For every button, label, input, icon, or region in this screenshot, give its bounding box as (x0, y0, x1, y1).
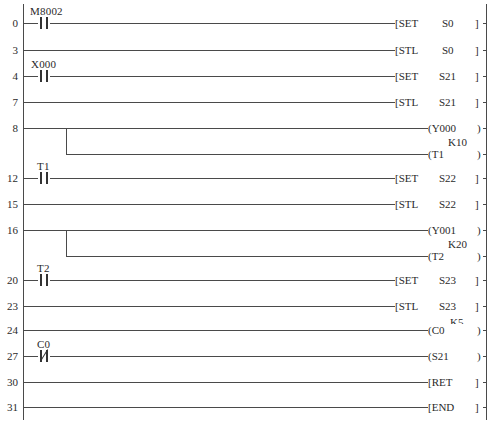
branch-wire (66, 128, 67, 155)
rung-wire (23, 102, 395, 103)
set-instruction[interactable]: [SET S23 ] (395, 274, 486, 286)
branch-rung-wire (66, 256, 428, 257)
stl-instruction[interactable]: [STL S0 ] (395, 44, 486, 56)
end-instruction[interactable]: [END ] (428, 401, 486, 413)
step-number: 8 (0, 122, 18, 134)
counter-coil-c0[interactable]: (C0 ) (428, 324, 486, 336)
step-number: 27 (0, 350, 18, 362)
normally-closed-contact-icon[interactable] (38, 350, 50, 362)
rung-wire-end (483, 76, 486, 77)
step-number: 3 (0, 44, 18, 56)
rung-wire-end (483, 50, 486, 51)
rung-wire-end (483, 204, 486, 205)
step-number: 23 (0, 300, 18, 312)
step-number: 12 (0, 172, 18, 184)
output-coil-s21[interactable]: (S21 ) (428, 350, 486, 362)
rung-wire (23, 204, 395, 205)
ret-instruction[interactable]: [RET ] (428, 376, 486, 388)
step-number: 0 (0, 17, 18, 29)
step-number: 24 (0, 324, 18, 336)
set-instruction[interactable]: [SET S22 ] (395, 172, 486, 184)
normally-open-contact-icon[interactable] (38, 274, 50, 286)
rung-wire (23, 230, 428, 231)
branch-rung-wire (66, 154, 428, 155)
rung-wire (23, 382, 428, 383)
rung-wire-end (483, 178, 486, 179)
rung-wire (23, 178, 395, 179)
rung-wire (23, 280, 395, 281)
step-number: 4 (0, 70, 18, 82)
normally-open-contact-icon[interactable] (38, 17, 50, 29)
contact-label: X000 (31, 58, 56, 70)
contact-label: M8002 (30, 5, 63, 17)
step-number: 31 (0, 401, 18, 413)
rung-wire (23, 50, 395, 51)
output-coil-y000[interactable]: (Y000 ) (428, 122, 486, 134)
stl-instruction[interactable]: [STL S22 ] (395, 198, 486, 210)
rung-wire-end (483, 356, 486, 357)
rung-wire (23, 76, 395, 77)
rung-wire (23, 306, 395, 307)
branch-wire (66, 230, 67, 257)
timer-preset: K10 (448, 136, 467, 148)
step-number: 20 (0, 274, 18, 286)
ladder-diagram: 0 3 4 7 8 12 15 16 20 23 24 27 30 31 M80… (0, 0, 496, 426)
rung-wire-end (483, 306, 486, 307)
step-number: 30 (0, 376, 18, 388)
step-number: 7 (0, 96, 18, 108)
step-number: 16 (0, 224, 18, 236)
timer-coil-t2[interactable]: (T2 ) (428, 250, 486, 262)
output-coil-y001[interactable]: (Y001 ) (428, 224, 486, 236)
timer-preset: K20 (448, 238, 467, 250)
right-power-rail (486, 4, 487, 420)
rung-wire-end (483, 230, 486, 231)
stl-instruction[interactable]: [STL S23 ] (395, 300, 486, 312)
rung-wire-end (483, 382, 486, 383)
contact-label: T2 (37, 262, 50, 274)
step-number: 15 (0, 198, 18, 210)
set-instruction[interactable]: [SET S21 ] (395, 70, 486, 82)
rung-wire (23, 128, 428, 129)
rung-wire-end (483, 280, 486, 281)
normally-open-contact-icon[interactable] (38, 70, 50, 82)
normally-open-contact-icon[interactable] (38, 172, 50, 184)
rung-wire (23, 356, 428, 357)
stl-instruction[interactable]: [STL S21 ] (395, 96, 486, 108)
rung-wire (23, 330, 428, 331)
rung-wire (23, 407, 428, 408)
rung-wire-end (483, 256, 486, 257)
rung-wire-end (483, 23, 486, 24)
timer-coil-t1[interactable]: (T1 ) (428, 148, 486, 160)
set-instruction[interactable]: [SET S0 ] (395, 17, 486, 29)
contact-label: C0 (37, 338, 50, 350)
rung-wire-end (483, 102, 486, 103)
left-power-rail (23, 4, 24, 420)
rung-wire-end (483, 128, 486, 129)
rung-wire-end (483, 407, 486, 408)
rung-wire (23, 23, 395, 24)
contact-label: T1 (37, 160, 50, 172)
rung-wire-end (483, 154, 486, 155)
rung-wire-end (483, 330, 486, 331)
